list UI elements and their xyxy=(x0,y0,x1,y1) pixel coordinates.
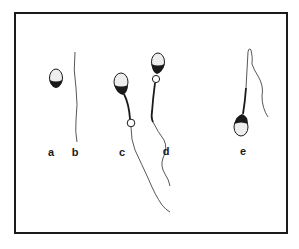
sperm-diagram xyxy=(0,0,299,249)
label-a: a xyxy=(48,147,54,158)
label-c: c xyxy=(119,147,125,158)
label-b: b xyxy=(72,147,79,158)
sperm-e-icon xyxy=(234,49,268,136)
sperm-d-icon xyxy=(152,53,171,186)
label-d: d xyxy=(163,146,170,157)
label-e: e xyxy=(240,146,246,157)
sperm-a-head-icon xyxy=(50,69,63,88)
sperm-b-tail-icon xyxy=(74,52,77,142)
sperm-c-icon xyxy=(114,73,170,212)
